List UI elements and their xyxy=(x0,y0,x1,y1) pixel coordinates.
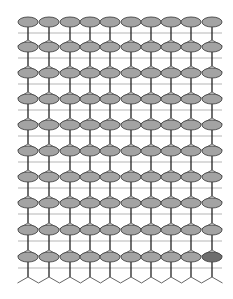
ellipse-node xyxy=(121,42,141,52)
ellipse-node xyxy=(100,120,120,130)
ellipse-node xyxy=(161,198,181,208)
ellipse-node xyxy=(100,94,120,104)
ellipse-node xyxy=(18,198,38,208)
ellipse-node xyxy=(141,94,161,104)
ellipse-node xyxy=(80,252,100,262)
ellipse-node xyxy=(121,68,141,78)
ellipse-node xyxy=(18,68,38,78)
ellipse-node xyxy=(202,94,222,104)
ellipse-node xyxy=(202,172,222,182)
ellipse-node xyxy=(161,94,181,104)
ellipse-node xyxy=(39,198,59,208)
ellipse-node xyxy=(80,198,100,208)
ellipse-node xyxy=(141,172,161,182)
ellipse-node xyxy=(141,42,161,52)
ellipse-node xyxy=(60,146,80,156)
ellipse-node xyxy=(80,68,100,78)
ellipse-node xyxy=(39,146,59,156)
ellipse-node xyxy=(121,146,141,156)
ellipse-node xyxy=(100,172,120,182)
ellipse-node xyxy=(39,172,59,182)
ellipse-node xyxy=(161,42,181,52)
ellipse-node xyxy=(39,94,59,104)
lattice-diagram xyxy=(0,0,233,299)
ellipse-node xyxy=(121,252,141,262)
ellipse-node xyxy=(100,225,120,235)
ellipse-node xyxy=(181,198,201,208)
ellipse-node xyxy=(121,120,141,130)
ellipse-node xyxy=(161,225,181,235)
ellipse-node xyxy=(181,94,201,104)
ellipse-node xyxy=(39,42,59,52)
ellipse-node xyxy=(18,17,38,27)
ellipse-node xyxy=(181,68,201,78)
ellipse-node xyxy=(161,120,181,130)
highlighted-ellipse-node xyxy=(202,252,222,262)
ellipse-node xyxy=(80,225,100,235)
ellipse-node xyxy=(60,68,80,78)
ellipse-node xyxy=(141,252,161,262)
ellipse-node xyxy=(100,17,120,27)
ellipse-node xyxy=(202,225,222,235)
ellipse-node xyxy=(161,68,181,78)
ellipse-node xyxy=(60,252,80,262)
ellipse-node xyxy=(181,172,201,182)
ellipse-node xyxy=(181,120,201,130)
ellipse-node xyxy=(39,17,59,27)
ellipse-node xyxy=(80,146,100,156)
ellipse-node xyxy=(202,146,222,156)
ellipse-node xyxy=(100,198,120,208)
ellipse-node xyxy=(181,42,201,52)
ellipse-node xyxy=(80,120,100,130)
bottom-zigzag xyxy=(18,277,223,283)
ellipse-node xyxy=(39,120,59,130)
ellipse-node xyxy=(181,225,201,235)
lattice-canvas xyxy=(0,0,233,299)
ellipse-node xyxy=(202,68,222,78)
ellipse-node xyxy=(60,17,80,27)
ellipse-node xyxy=(39,225,59,235)
ellipse-node xyxy=(202,42,222,52)
ellipse-node xyxy=(121,94,141,104)
ellipse-node xyxy=(18,172,38,182)
ellipse-node xyxy=(100,252,120,262)
ellipse-node xyxy=(39,68,59,78)
ellipse-node xyxy=(60,172,80,182)
ellipse-node xyxy=(18,146,38,156)
ellipse-node xyxy=(18,225,38,235)
ellipse-node xyxy=(141,146,161,156)
ellipse-node xyxy=(60,42,80,52)
ellipse-node xyxy=(18,42,38,52)
ellipse-node xyxy=(80,94,100,104)
ellipse-node xyxy=(141,120,161,130)
ellipse-node xyxy=(39,252,59,262)
ellipse-node xyxy=(121,225,141,235)
ellipse-node xyxy=(121,198,141,208)
ellipse-node xyxy=(181,17,201,27)
ellipse-node xyxy=(202,17,222,27)
ellipse-node xyxy=(80,17,100,27)
ellipse-node xyxy=(121,17,141,27)
ellipse-node xyxy=(18,94,38,104)
ellipse-node xyxy=(121,172,141,182)
ellipse-node xyxy=(18,120,38,130)
ellipse-node xyxy=(181,146,201,156)
ellipse-node xyxy=(60,225,80,235)
ellipse-node xyxy=(141,198,161,208)
ellipse-node xyxy=(100,68,120,78)
ellipse-node xyxy=(80,42,100,52)
ellipse-node xyxy=(161,172,181,182)
ellipse-node xyxy=(161,146,181,156)
ellipse-node xyxy=(161,17,181,27)
ellipse-node xyxy=(100,146,120,156)
ellipse-node xyxy=(202,198,222,208)
ellipse-node xyxy=(161,252,181,262)
ellipse-node xyxy=(100,42,120,52)
ellipse-node xyxy=(60,94,80,104)
ellipse-node xyxy=(80,172,100,182)
ellipse-node xyxy=(181,252,201,262)
ellipse-node xyxy=(18,252,38,262)
ellipse-node xyxy=(202,120,222,130)
ellipse-node xyxy=(60,120,80,130)
ellipse-node xyxy=(60,198,80,208)
